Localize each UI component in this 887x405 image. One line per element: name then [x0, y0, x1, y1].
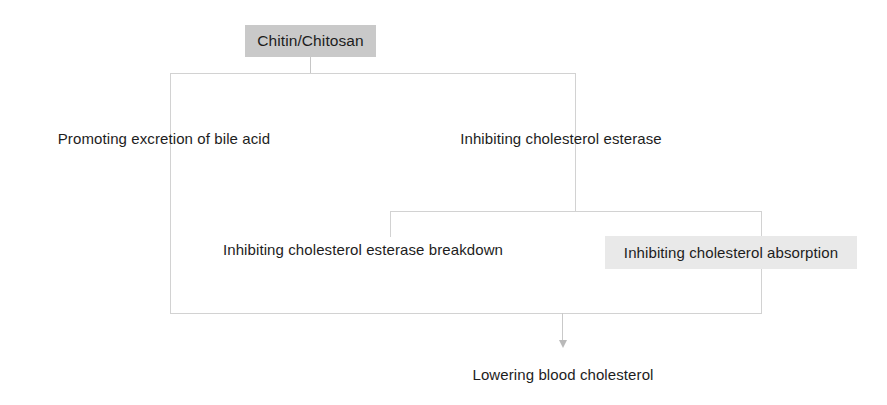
connector-level2-left-vertical — [390, 211, 391, 237]
node-promoting-excretion-bile-acid: Promoting excretion of bile acid — [24, 126, 304, 150]
connector-level1-horizontal-bar — [170, 73, 576, 74]
node-inhibiting-cholesterol-esterase: Inhibiting cholesterol esterase — [437, 126, 685, 150]
connector-level2-horizontal-bar — [390, 211, 762, 212]
node-chitin-chitosan: Chitin/Chitosan — [245, 25, 376, 57]
connector-chitin-stub — [310, 57, 311, 73]
node-inhibiting-cholesterol-esterase-breakdown: Inhibiting cholesterol esterase breakdow… — [181, 237, 545, 261]
node-inhibiting-cholesterol-absorption: Inhibiting cholesterol absorption — [605, 236, 857, 269]
node-lowering-blood-cholesterol: Lowering blood cholesterol — [427, 362, 699, 386]
connector-bottom-collector-bar — [170, 313, 762, 314]
arrow-down-icon — [559, 340, 567, 348]
connector-outcome-arrow-shaft — [562, 313, 563, 342]
flowchart-canvas: Chitin/Chitosan Promoting excretion of b… — [0, 0, 887, 405]
connector-left-branch-vertical — [170, 73, 171, 313]
